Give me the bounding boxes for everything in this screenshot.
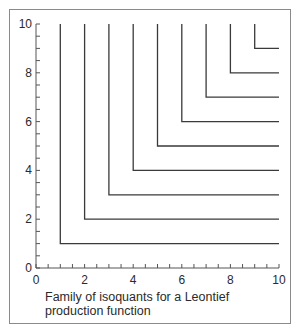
x-tick-label: 0 [33, 273, 40, 287]
figure-caption: Family of isoquants for a Leontief produ… [45, 290, 285, 318]
x-tick-label: 4 [130, 273, 137, 287]
isoquant-line [109, 24, 279, 195]
y-tick-label: 0 [25, 261, 32, 275]
y-tick-label: 2 [25, 212, 32, 226]
y-tick-label: 10 [19, 17, 33, 31]
y-tick-label: 4 [25, 163, 32, 177]
isoquant-series [60, 24, 279, 244]
isoquant-line [60, 24, 279, 244]
y-tick-label: 8 [25, 66, 32, 80]
tick-labels: 02468100246810 [19, 17, 286, 287]
isoquant-line [158, 24, 280, 146]
isoquant-line [255, 24, 279, 48]
x-tick-label: 10 [272, 273, 286, 287]
x-tick-label: 8 [227, 273, 234, 287]
x-tick-label: 2 [81, 273, 88, 287]
y-tick-label: 6 [25, 115, 32, 129]
isoquant-chart: 02468100246810 [0, 0, 300, 335]
x-tick-label: 6 [178, 273, 185, 287]
isoquant-line [206, 24, 279, 97]
